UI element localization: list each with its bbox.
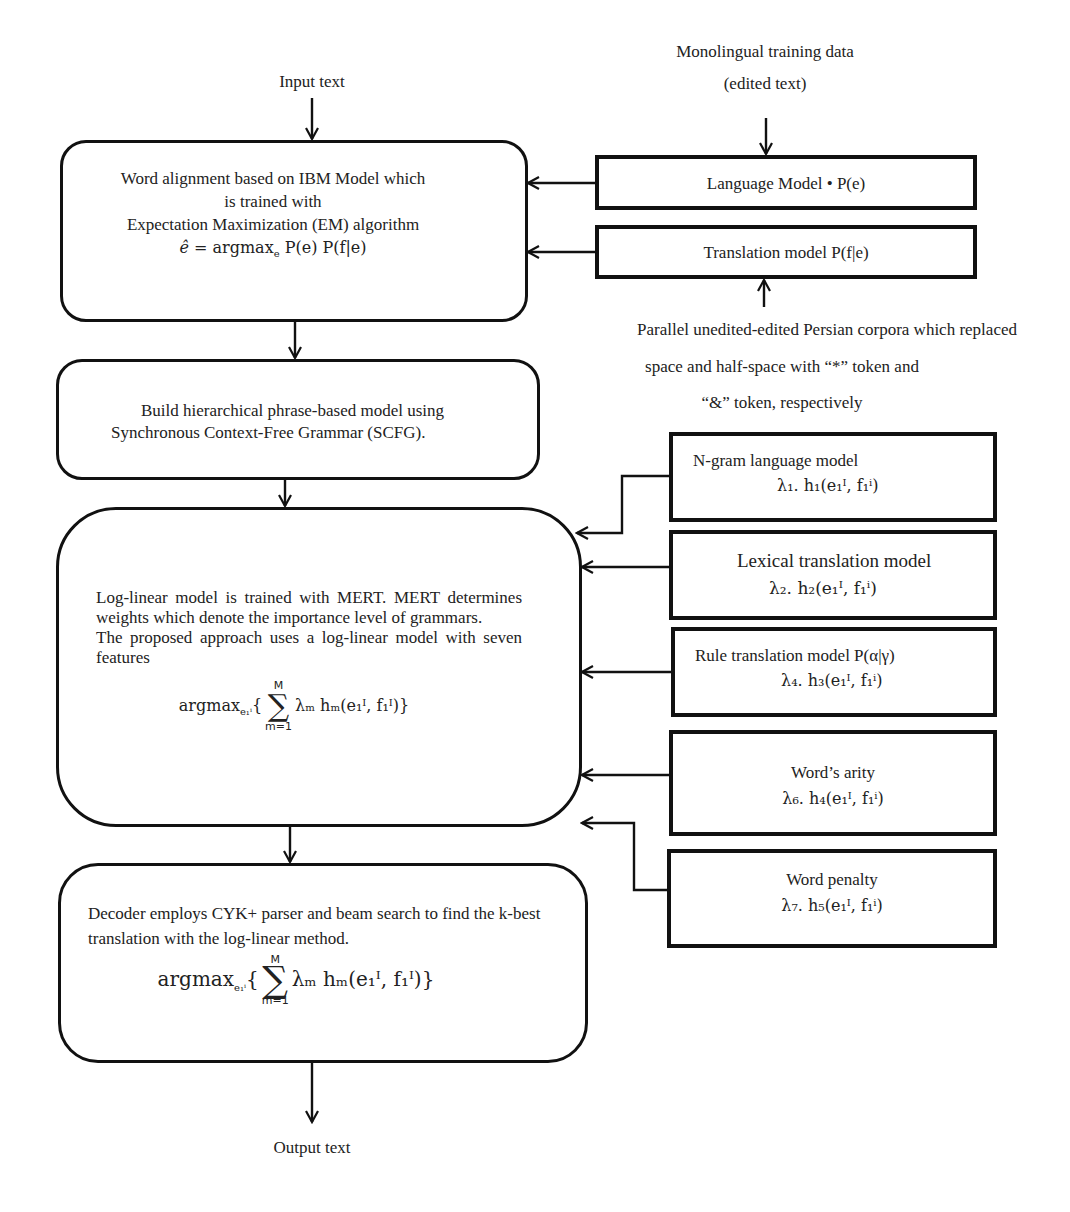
hierarchical-line1: Build hierarchical phrase-based model us…	[141, 400, 444, 421]
sum-symbol: M∑m=1	[262, 954, 289, 1006]
alignment-formula: ê = argmaxe P(e) P(f|e)	[63, 236, 483, 265]
feature-formula: λ₇. h₅(e₁ᴵ, f₁ⁱ)	[671, 896, 993, 915]
parallel-corpora-line2: space and half-space with “*” token and	[592, 357, 972, 377]
hierarchical-model-box: Build hierarchical phrase-based model us…	[56, 359, 540, 480]
alignment-line3: Expectation Maximization (EM) algorithm	[63, 213, 483, 236]
feature-title: Lexical translation model	[737, 550, 931, 571]
feature-title: Word penalty	[671, 869, 993, 890]
alignment-line2: is trained with	[63, 190, 483, 213]
parallel-corpora-label: Parallel unedited-edited Persian corpora…	[592, 320, 1062, 340]
input-text-label: Input text	[262, 72, 362, 92]
arrow-ngram-to-loglinear	[577, 476, 671, 533]
decoder-formula: argmaxe₁ⁱ{M∑m=1λₘ hₘ(e₁ᴵ, f₁ᴵ)}	[61, 954, 531, 1006]
sum-symbol: M∑m=1	[265, 680, 292, 732]
feature-box-rule-translation: Rule translation model P(α|γ) λ₄. h₃(e₁ᴵ…	[671, 627, 997, 717]
hierarchical-line2: Synchronous Context-Free Grammar (SCFG).	[111, 422, 425, 443]
monolingual-data-label: Monolingual training data	[620, 42, 910, 62]
decoder-box: Decoder employs CYK+ parser and beam sea…	[58, 863, 588, 1063]
feature-title: Word’s arity	[673, 762, 993, 783]
feature-title: N-gram language model	[693, 450, 858, 471]
language-model-label: Language Model • P(e)	[599, 173, 973, 194]
log-linear-paragraph2: The proposed approach uses a log-linear …	[96, 628, 522, 668]
translation-model-label: Translation model P(f|e)	[599, 242, 973, 263]
feature-formula: λ₆. h₄(e₁ᴵ, f₁ⁱ)	[673, 789, 993, 808]
output-text-label: Output text	[257, 1138, 367, 1158]
feature-box-lexical: Lexical translation model λ₂. h₂(e₁ᴵ, f₁…	[669, 530, 997, 620]
log-linear-formula: argmaxe₁ⁱ{M∑m=1λₘ hₘ(e₁ᴵ, f₁ᴵ)}	[59, 680, 529, 732]
feature-formula: λ₁. h₁(e₁ᴵ, f₁ⁱ)	[777, 476, 879, 495]
log-linear-model-box: Log-linear model is trained with MERT. M…	[56, 507, 582, 827]
monolingual-data-sublabel: (edited text)	[620, 74, 910, 94]
feature-box-word-arity: Word’s arity λ₆. h₄(e₁ᴵ, f₁ⁱ)	[669, 730, 997, 836]
parallel-corpora-line3: “&” token, respectively	[592, 393, 972, 413]
feature-formula: λ₄. h₃(e₁ᴵ, f₁ⁱ)	[781, 671, 883, 690]
log-linear-paragraph1: Log-linear model is trained with MERT. M…	[96, 588, 522, 628]
alignment-line1: Word alignment based on IBM Model which	[63, 167, 483, 190]
decoder-paragraph: Decoder employs CYK+ parser and beam sea…	[88, 901, 568, 951]
arrow-penalty-to-loglinear	[582, 823, 667, 890]
feature-formula: λ₂. h₂(e₁ᴵ, f₁ⁱ)	[769, 578, 877, 598]
feature-box-word-penalty: Word penalty λ₇. h₅(e₁ᴵ, f₁ⁱ)	[667, 849, 997, 948]
language-model-box: Language Model • P(e)	[595, 155, 977, 210]
translation-model-box: Translation model P(f|e)	[595, 225, 977, 279]
feature-title: Rule translation model P(α|γ)	[695, 645, 895, 666]
feature-box-ngram: N-gram language model λ₁. h₁(e₁ᴵ, f₁ⁱ)	[669, 432, 997, 522]
word-alignment-box: Word alignment based on IBM Model which …	[60, 140, 528, 322]
